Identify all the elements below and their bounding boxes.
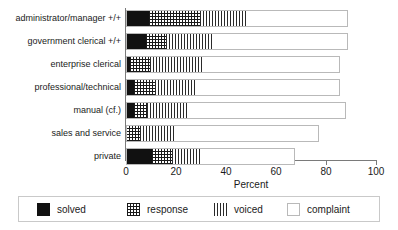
x-tick-label-100: 100 (368, 166, 385, 177)
chart-legend: solved response voiced complaint (18, 196, 380, 222)
bar-segment-complaint (212, 33, 348, 50)
bar-segment-response (126, 125, 140, 142)
bar-chart: administrator/manager +/+ government cle… (0, 0, 398, 230)
bar-segment-complaint (200, 148, 295, 165)
legend-swatch-voiced-icon (214, 203, 227, 216)
bar-segment-complaint (197, 79, 340, 96)
x-tick-label-60: 60 (270, 166, 281, 177)
legend-item-response: response (127, 202, 188, 217)
category-label-private: private (94, 151, 121, 162)
x-axis-title: Percent (126, 179, 376, 191)
legend-label-complaint: complaint (307, 204, 350, 216)
bar-segment-complaint (248, 10, 349, 27)
legend-item-complaint: complaint (287, 202, 350, 217)
bar-segment-voiced (150, 56, 204, 73)
category-label-sales-and-service: sales and service (51, 128, 121, 139)
x-tick-100 (376, 160, 377, 165)
category-label-professional-technical: professional/technical (34, 82, 121, 93)
category-axis-labels: administrator/manager +/+ government cle… (0, 0, 121, 160)
bar-segment-solved (126, 79, 134, 96)
bar-segment-solved (126, 102, 134, 119)
category-label-enterprise-clerical: enterprise clerical (50, 59, 121, 70)
bar-segment-response (134, 79, 155, 96)
legend-item-solved: solved (37, 202, 86, 217)
x-tick-label-80: 80 (320, 166, 331, 177)
legend-item-voiced: voiced (214, 202, 263, 217)
legend-swatch-solved-icon (37, 203, 50, 216)
bar-segment-voiced (155, 79, 198, 96)
x-tick-label-40: 40 (220, 166, 231, 177)
legend-swatch-complaint-icon (287, 203, 300, 216)
bar-segment-response (134, 102, 147, 119)
legend-swatch-response-icon (127, 203, 140, 216)
category-label-government-clerical: government clerical +/+ (27, 36, 121, 47)
bar-segment-response (146, 33, 166, 50)
bar-segment-solved (126, 10, 149, 27)
bar-segment-response (130, 56, 150, 73)
bar-segment-response (152, 148, 172, 165)
bar-segment-voiced (140, 125, 175, 142)
bar-segment-response (149, 10, 200, 27)
bar-segment-complaint (175, 125, 319, 142)
bar-segment-voiced (200, 10, 248, 27)
x-tick-80 (326, 160, 327, 165)
bar-segment-solved (126, 33, 146, 50)
bar-segment-voiced (166, 33, 212, 50)
x-tick-label-20: 20 (170, 166, 181, 177)
bar-segment-complaint (188, 102, 346, 119)
legend-label-solved: solved (57, 204, 86, 216)
bar-segment-solved (126, 148, 152, 165)
bar-segment-complaint (204, 56, 340, 73)
category-label-manual: manual (cf.) (73, 105, 121, 116)
bar-segment-voiced (172, 148, 200, 165)
x-tick-label-0: 0 (123, 166, 129, 177)
category-label-administrator-manager: administrator/manager +/+ (15, 13, 121, 24)
legend-label-response: response (147, 204, 188, 216)
legend-label-voiced: voiced (234, 204, 263, 216)
bar-segment-voiced (147, 102, 188, 119)
